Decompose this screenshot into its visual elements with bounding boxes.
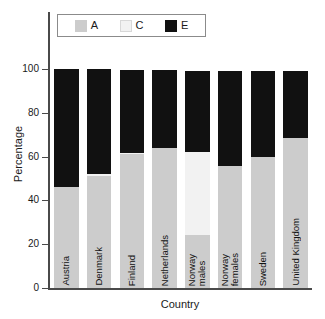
legend-label-c: C [136,20,144,31]
bar-segment-c [87,174,111,176]
bar-austria[interactable]: Austria [54,69,78,288]
bar-segment-e [54,69,78,187]
bar-segment-e [87,69,111,174]
bar-segment-e [218,71,242,166]
bar-denmark[interactable]: Denmark [87,69,111,288]
y-tick-label: 80 [28,108,39,118]
bar-segment-e [283,71,307,138]
bar-segment-c [120,153,144,154]
y-tick-label: 60 [28,152,39,162]
y-tick-mark [42,157,48,158]
x-axis-line [48,288,312,290]
bar-segment-a [87,176,111,288]
bar-segment-a [152,148,176,288]
bar-segment-e [185,71,209,152]
bar-norway-males[interactable]: Norway males [185,69,209,288]
bar-segment-a [185,235,209,288]
bar-segment-a [283,138,307,288]
bar-segment-e [251,71,275,156]
bar-segment-a [54,187,78,288]
bar-finland[interactable]: Finland [120,69,144,288]
y-axis-title: Percentage [12,94,24,214]
y-tick-mark [42,244,48,245]
chart-figure: A C E 020406080100 Percentage Country Au… [0,0,325,319]
bar-netherlands[interactable]: Netherlands [152,69,176,288]
legend-swatch-a-icon [75,20,87,32]
bar-norway-females[interactable]: Norway females [218,69,242,288]
bar-segment-e [152,70,176,148]
y-tick-label: 0 [33,283,39,293]
y-tick-label: 100 [22,64,39,74]
plot-area: AustriaDenmarkFinlandNetherlandsNorway m… [50,69,312,288]
bar-sweden[interactable]: Sweden [251,69,275,288]
x-axis-title: Country [48,298,312,310]
legend-label-e: E [181,20,188,31]
y-tick-label: 40 [28,195,39,205]
legend-entry-c: C [120,20,144,32]
legend-swatch-e-icon [165,20,177,32]
bar-segment-c [185,152,209,235]
chart-legend: A C E [57,14,206,37]
y-tick-mark [42,69,48,70]
bar-segment-a [120,154,144,288]
y-tick-mark [42,200,48,201]
legend-entry-e: E [165,20,188,32]
legend-swatch-c-icon [120,20,132,32]
bar-segment-e [120,70,144,153]
legend-label-a: A [91,20,98,31]
y-tick-mark [42,288,48,289]
bar-segment-a [218,166,242,288]
bar-segment-a [251,157,275,288]
bar-united-kingdom[interactable]: United Kingdom [283,69,307,288]
y-tick-label: 20 [28,239,39,249]
legend-entry-a: A [75,20,98,32]
y-tick-mark [42,113,48,114]
